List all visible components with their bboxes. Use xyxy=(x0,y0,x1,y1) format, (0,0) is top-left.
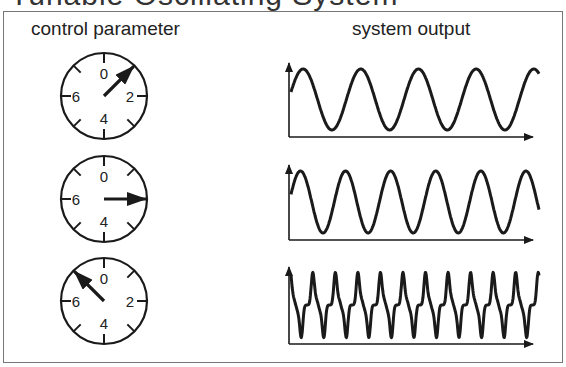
dial-label-bottom: 4 xyxy=(100,110,108,127)
dial-label-top: 0 xyxy=(100,168,108,185)
output-plot-3 xyxy=(289,267,539,344)
output-waveform xyxy=(291,69,539,130)
dial-label-right: 2 xyxy=(126,293,134,310)
output-waveform xyxy=(291,171,539,233)
output-plot-1 xyxy=(289,63,539,137)
dial-label-top: 0 xyxy=(100,65,108,82)
dial-1: 0624 xyxy=(61,53,147,139)
output-plot-2 xyxy=(289,165,539,240)
dial-2: 064 xyxy=(61,156,147,242)
dial-label-bottom: 4 xyxy=(100,315,108,332)
diagram-graphics: 06240640624 xyxy=(0,0,566,367)
dial-label-bottom: 4 xyxy=(100,213,108,230)
dial-label-top: 0 xyxy=(100,270,108,287)
dial-label-left: 6 xyxy=(72,88,80,105)
dial-label-right: 2 xyxy=(126,88,134,105)
dial-3: 0624 xyxy=(61,258,147,344)
dial-label-left: 6 xyxy=(72,191,80,208)
dial-label-left: 6 xyxy=(72,293,80,310)
output-waveform xyxy=(291,272,539,337)
